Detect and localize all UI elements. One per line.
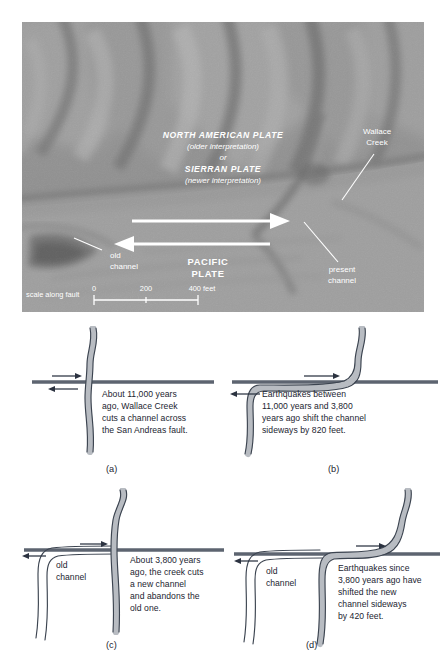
label-present-channel-line2: channel (328, 276, 356, 285)
caption-b-line1: Earthquakes between (262, 388, 398, 400)
caption-c-line3: a new channel (130, 578, 228, 590)
caption-c-line4: and abandons the (130, 590, 228, 602)
label-old-channel-line1: old (110, 251, 121, 260)
label-wallace-creek-line2: Creek (366, 138, 388, 147)
label-or: or (219, 153, 226, 162)
creek-channel-c (111, 490, 127, 632)
panel-label-d: (d) (306, 640, 317, 650)
panel-a: About 11,000 years ago, Wallace Creek cu… (18, 326, 218, 481)
panel-c: old channel About 3,800 years ago, the c… (18, 488, 228, 660)
label-north-american-plate: NORTH AMERICAN PLATE (163, 130, 284, 140)
label-newer-interpretation: (newer interpretation) (185, 176, 261, 185)
caption-d-line4: channel sideways (338, 598, 442, 610)
panel-label-b: (b) (328, 464, 339, 474)
old-channel-label-d: old channel (266, 566, 296, 589)
caption-d-line5: by 420 feet. (338, 610, 442, 622)
label-older-interpretation: (older interpretation) (187, 142, 259, 151)
caption-a-line2: ago, Wallace Creek (102, 400, 214, 412)
creek-channel-a (85, 328, 97, 452)
old-channel-label-c-line2: channel (56, 572, 86, 584)
panel-label-a: (a) (106, 464, 117, 474)
scale-tick-400: 400 feet (189, 284, 216, 293)
caption-c-line1: About 3,800 years (130, 554, 228, 566)
old-channel-label-c-line1: old (56, 560, 86, 572)
caption-a-line3: cuts a channel across (102, 412, 214, 424)
caption-b-line2: 11,000 years and 3,800 (262, 400, 398, 412)
label-old-channel-line2: channel (110, 262, 138, 271)
caption-c-line5: old one. (130, 602, 228, 614)
caption-d-line2: 3,800 years ago have (338, 574, 442, 586)
caption-a-line4: the San Andreas fault. (102, 424, 214, 436)
panel-b: Earthquakes between 11,000 years and 3,8… (222, 326, 442, 481)
panel-label-c: (c) (106, 640, 117, 650)
caption-a: About 11,000 years ago, Wallace Creek cu… (102, 388, 214, 436)
caption-d-line1: Earthquakes since (338, 562, 442, 574)
label-present-channel-line1: present (329, 265, 356, 274)
caption-c-line2: ago, the creek cuts (130, 566, 228, 578)
scale-tick-200: 200 (140, 284, 152, 293)
old-channel-label-d-line2: channel (266, 578, 296, 590)
caption-b-line4: sideways by 820 feet. (262, 424, 398, 436)
scale-tick-0: 0 (92, 284, 96, 293)
panel-d: old channel Earthquakes since 3,800 year… (228, 488, 443, 660)
aerial-photograph: NORTH AMERICAN PLATE (older interpretati… (22, 22, 424, 312)
old-channel-label-d-line1: old (266, 566, 296, 578)
label-wallace-creek-line1: Wallace (363, 127, 392, 136)
caption-d-line3: shifted the new (338, 586, 442, 598)
caption-c: About 3,800 years ago, the creek cuts a … (130, 554, 228, 614)
label-sierran-plate: SIERRAN PLATE (185, 164, 261, 174)
caption-a-line1: About 11,000 years (102, 388, 214, 400)
caption-b: Earthquakes between 11,000 years and 3,8… (262, 388, 398, 436)
label-pacific-plate-line1: PACIFIC (187, 256, 228, 267)
old-channel-label-c: old channel (56, 560, 86, 583)
scale-caption: scale along fault (26, 290, 79, 299)
label-pacific-plate-line2: PLATE (191, 268, 224, 279)
old-channel-d (244, 550, 322, 644)
caption-d: Earthquakes since 3,800 years ago have s… (338, 562, 442, 622)
caption-b-line3: years ago shift the channel (262, 412, 398, 424)
